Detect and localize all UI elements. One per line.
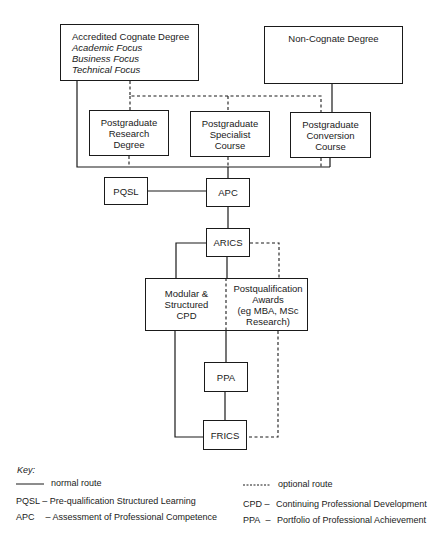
node-postgraduate-specialist-course: Postgraduate Specialist Course <box>190 111 270 157</box>
career-route-diagram: Accredited Cognate Degree Academic Focus… <box>0 0 439 545</box>
node-line: Specialist <box>210 129 251 140</box>
node-line: Modular & <box>165 288 208 299</box>
node-title: Accredited Cognate Degree <box>72 31 189 42</box>
node-pqsl: PQSL <box>104 177 148 205</box>
normal-route-line <box>175 331 203 437</box>
node-label: PQSL <box>113 186 138 197</box>
node-line: Awards <box>252 294 284 305</box>
node-label: FRICS <box>211 430 240 441</box>
node-line: Postgraduate <box>101 117 158 128</box>
abbr-dash: – <box>42 496 47 506</box>
node-non-cognate-degree: Non-Cognate Degree <box>264 26 403 84</box>
node-subtitle: Technical Focus <box>72 64 140 75</box>
abbr-meaning: Assessment of Professional Competence <box>53 512 218 522</box>
node-line: Degree <box>113 139 144 150</box>
node-title: Non-Cognate Degree <box>288 33 378 44</box>
node-line: Course <box>315 141 346 152</box>
node-postgraduate-conversion-course: Postgraduate Conversion Course <box>290 112 371 158</box>
node-line: (eg MBA, MSc <box>237 305 298 316</box>
abbr-dash: – <box>46 512 51 522</box>
node-label: APC <box>218 187 238 198</box>
abbr-dash: – <box>265 499 270 509</box>
normal-route-line <box>176 243 206 278</box>
node-label: ARICS <box>213 237 242 248</box>
key-abbr-pqsl: PQSL – Pre-qualification Structured Lear… <box>16 496 196 507</box>
node-apc: APC <box>206 178 250 207</box>
key-abbr-ppa: PPA – Portfolio of Professional Achievem… <box>243 515 426 526</box>
node-line: Postgraduate <box>302 119 359 130</box>
abbr: APC <box>16 512 43 523</box>
key-abbr-cpd: CPD – Continuing Professional Developmen… <box>243 499 427 510</box>
node-accredited-cognate-degree: Accredited Cognate Degree Academic Focus… <box>60 24 199 81</box>
node-subtitle: Academic Focus <box>72 42 142 53</box>
node-line: Conversion <box>306 130 354 141</box>
node-line: Structured <box>165 299 209 310</box>
node-line: Research <box>109 128 150 139</box>
node-line: Postgraduate <box>202 118 259 129</box>
abbr-meaning: Continuing Professional Development <box>276 499 427 509</box>
node-arics: ARICS <box>206 228 250 257</box>
node-line: Research) <box>246 316 290 327</box>
node-line: Postqualification <box>233 283 302 294</box>
key-abbr-apc: APC – Assessment of Professional Compete… <box>16 512 217 523</box>
node-line: Course <box>215 140 246 151</box>
node-postgraduate-research-degree: Postgraduate Research Degree <box>89 110 169 156</box>
node-postqualification-awards: Postqualification Awards (eg MBA, MSc Re… <box>227 279 309 330</box>
optional-route-line <box>247 331 278 437</box>
key-optional-route-label: optional route <box>278 479 333 490</box>
abbr: CPD <box>243 499 262 509</box>
optional-route-line <box>250 243 279 278</box>
abbr-meaning: Pre-qualification Structured Learning <box>50 496 196 506</box>
abbr: PQSL <box>16 496 40 506</box>
key-normal-route-label: normal route <box>51 478 102 489</box>
node-ppa: PPA <box>204 362 248 392</box>
node-line: CPD <box>176 310 196 321</box>
optional-route-line <box>130 81 321 112</box>
node-subtitle: Business Focus <box>72 53 139 64</box>
abbr: PPA <box>243 515 260 525</box>
abbr-dash: – <box>265 515 270 525</box>
abbr-meaning: Portfolio of Professional Achievement <box>277 515 426 525</box>
node-frics: FRICS <box>203 420 247 450</box>
node-label: PPA <box>217 372 235 383</box>
node-modular-structured-cpd: Modular & Structured CPD <box>146 279 227 330</box>
node-cpd-and-postqualification-awards: Modular & Structured CPD Postqualificati… <box>145 278 308 331</box>
key-title: Key: <box>17 465 35 476</box>
